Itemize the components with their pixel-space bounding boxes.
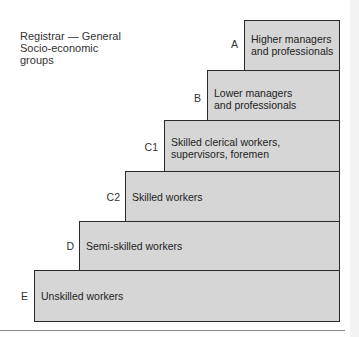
step-a: Higher managers and professionals bbox=[244, 20, 340, 71]
step-e-code: E bbox=[4, 290, 28, 302]
step-b: Lower managers and professionals bbox=[207, 70, 340, 121]
step-a-label: Higher managers and professionals bbox=[251, 33, 333, 57]
step-e-line-1: Unskilled workers bbox=[41, 290, 123, 302]
step-c2-code: C2 bbox=[96, 191, 120, 203]
step-e: Unskilled workers bbox=[34, 270, 340, 322]
page-edge bbox=[350, 0, 359, 337]
step-d-code: D bbox=[50, 240, 74, 252]
step-b-line-2: and professionals bbox=[214, 99, 296, 111]
step-b-line-1: Lower managers bbox=[214, 87, 296, 99]
bottom-rule bbox=[0, 330, 345, 331]
step-d: Semi-skilled workers bbox=[79, 221, 340, 271]
step-b-code: B bbox=[177, 92, 201, 104]
step-c1: Skilled clerical workers, supervisors, f… bbox=[164, 120, 340, 172]
step-c1-label: Skilled clerical workers, supervisors, f… bbox=[171, 136, 280, 160]
step-c1-code: C1 bbox=[134, 141, 158, 153]
step-c2-label: Skilled workers bbox=[132, 191, 203, 203]
step-d-line-1: Semi-skilled workers bbox=[86, 240, 182, 252]
diagram-title: Registrar — General Socio-economic group… bbox=[20, 30, 160, 66]
step-c2-line-1: Skilled workers bbox=[132, 191, 203, 203]
title-line-1: Registrar — General bbox=[20, 30, 160, 42]
step-d-label: Semi-skilled workers bbox=[86, 240, 182, 252]
step-b-label: Lower managers and professionals bbox=[214, 87, 296, 111]
step-a-line-2: and professionals bbox=[251, 45, 333, 57]
step-c1-line-1: Skilled clerical workers, bbox=[171, 136, 280, 148]
step-c1-line-2: supervisors, foremen bbox=[171, 148, 280, 160]
step-a-line-1: Higher managers bbox=[251, 33, 333, 45]
step-c2: Skilled workers bbox=[125, 171, 340, 222]
title-line-2: Socio-economic bbox=[20, 42, 160, 54]
title-line-3: groups bbox=[20, 54, 160, 66]
step-a-code: A bbox=[214, 38, 238, 50]
step-e-label: Unskilled workers bbox=[41, 290, 123, 302]
